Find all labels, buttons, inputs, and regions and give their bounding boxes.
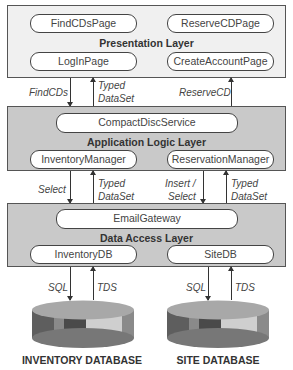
dataset-label-3: DataSet [231,191,267,203]
inventory-database-label: INVENTORY DATABASE [12,354,152,366]
dataset-label-1: DataSet [98,93,134,105]
application-logic-layer: CompactDiscService Application Logic Lay… [7,106,286,171]
sql-arrow-2 [208,267,209,300]
tds-label-2: TDS [235,282,255,294]
typed-dataset-arrow-1 [93,78,94,106]
dataset-label-2: DataSet [98,191,134,203]
select-label: Select [38,184,66,196]
site-database-icon [166,300,270,350]
typed-label-1: Typed [98,80,125,92]
presentation-layer-label: Presentation Layer [8,37,285,49]
tds-arrow-2 [231,267,232,300]
sql-label-2: SQL [186,282,206,294]
select-arrow [70,171,71,203]
insert-label: Insert / [165,178,196,190]
typed-label-3: Typed [231,178,258,190]
site-database-label: SITE DATABASE [148,354,288,366]
create-account-page-node[interactable]: CreateAccountPage [167,52,274,71]
findcds-label: FindCDs [29,87,68,99]
inventory-database-icon [31,300,135,350]
sql-label-1: SQL [48,282,68,294]
typed-dataset-arrow-2 [93,171,94,203]
tds-arrow-1 [93,267,94,300]
insert-select-arrow [203,171,204,203]
reservation-manager-node[interactable]: ReservationManager [167,150,274,169]
typed-label-2: Typed [98,178,125,190]
tds-label-1: TDS [97,282,117,294]
presentation-layer: FindCDsPage ReserveCDPage Presentation L… [7,5,286,78]
site-db-node[interactable]: SiteDB [167,245,274,264]
data-access-layer: EmailGateway Data Access Layer Inventory… [7,203,286,267]
email-gateway-node[interactable]: EmailGateway [56,209,238,229]
inventory-manager-node[interactable]: InventoryManager [30,150,137,169]
find-cds-page-node[interactable]: FindCDsPage [30,14,137,33]
typed-dataset-arrow-3 [226,171,227,203]
select-label-2: Select [168,191,196,203]
application-logic-layer-label: Application Logic Layer [8,136,285,148]
inventory-db-node[interactable]: InventoryDB [30,245,137,264]
reservecd-label: ReserveCD [179,87,231,99]
login-page-node[interactable]: LogInPage [30,52,137,71]
reserve-cd-page-node[interactable]: ReserveCDPage [167,14,274,33]
sql-arrow-1 [70,267,71,300]
findcds-arrow [70,78,71,106]
data-access-layer-label: Data Access Layer [8,232,285,244]
compact-disc-service-node[interactable]: CompactDiscService [56,113,238,133]
reservecd-arrow [231,78,232,106]
